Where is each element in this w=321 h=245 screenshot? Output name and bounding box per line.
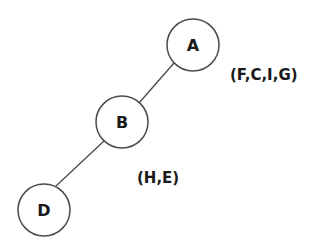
node-b-label: B	[116, 113, 128, 132]
node-b: B	[96, 96, 148, 148]
annotation-a-set: (F,C,I,G)	[230, 66, 298, 84]
node-a-label: A	[187, 36, 200, 55]
annotation-b-set: (H,E)	[137, 169, 179, 187]
edge-a-b	[139, 63, 174, 103]
node-d: D	[18, 184, 70, 236]
edge-b-d	[56, 141, 104, 186]
tree-diagram: A B D (F,C,I,G) (H,E)	[0, 0, 321, 245]
node-a: A	[167, 19, 219, 71]
node-d-label: D	[37, 201, 50, 220]
